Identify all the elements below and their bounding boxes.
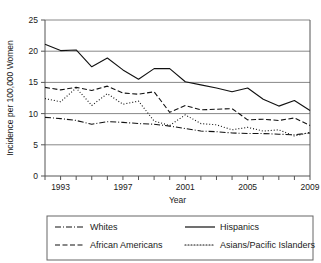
- x-axis-title: Year: [169, 195, 186, 205]
- y-tick-label: 25: [29, 15, 39, 25]
- x-tick-label: 2005: [238, 182, 257, 192]
- plot-frame: [45, 20, 310, 176]
- y-axis-title: Incidence per 100,000 Women: [5, 40, 15, 156]
- gridlines: [45, 51, 310, 145]
- series-line-hispanics: [45, 44, 310, 110]
- x-tick-label: 2009: [301, 182, 320, 192]
- legend-border: [47, 216, 313, 260]
- x-tick-label: 1997: [113, 182, 132, 192]
- legend-label: Whites: [90, 222, 118, 232]
- legend-label: African Americans: [90, 240, 163, 250]
- x-axis-ticks: 19931997200120052009: [45, 176, 320, 192]
- y-tick-label: 0: [33, 171, 38, 181]
- chart-legend: WhitesHispanicsAfrican AmericansAsians/P…: [47, 216, 316, 260]
- legend-label: Asians/Pacific Islanders: [220, 240, 316, 250]
- x-tick-label: 1993: [51, 182, 70, 192]
- incidence-line-chart: 0510152025 19931997200120052009 Incidenc…: [0, 0, 321, 263]
- y-axis-ticks: 0510152025: [29, 15, 45, 181]
- data-series-group: [45, 44, 310, 136]
- y-tick-label: 15: [29, 77, 39, 87]
- series-line-asians-pacific-islanders: [45, 88, 310, 136]
- legend-label: Hispanics: [220, 222, 260, 232]
- y-tick-label: 20: [29, 46, 39, 56]
- y-tick-label: 5: [33, 140, 38, 150]
- x-tick-label: 2001: [176, 182, 195, 192]
- y-tick-label: 10: [29, 109, 39, 119]
- chart-figure: 0510152025 19931997200120052009 Incidenc…: [0, 0, 321, 263]
